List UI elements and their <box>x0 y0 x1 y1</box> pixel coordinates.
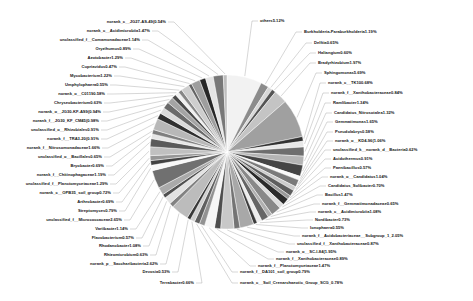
leader-line <box>209 228 256 266</box>
pie-slice-label: Variibacter1.14% <box>95 227 128 231</box>
pie-slice-label: norank_f__Acidobacteriaceae__Subgroup_1_… <box>302 234 403 238</box>
pie-slice-label: Azotobacter1.29% <box>87 56 123 60</box>
pie-slice-label: unclassified_f__Xanthobacteraceae0.87% <box>297 242 379 246</box>
pie-slice-label: norank_f__Xanthobacteraceae0.84% <box>331 91 403 95</box>
leader-line <box>104 96 173 104</box>
pie-slice-label: Candidatus_Nitrosotalea1.32% <box>334 111 394 115</box>
pie-slice-label: norank_o__SC-I-84(1.95% <box>286 250 337 254</box>
leader-line <box>300 132 333 179</box>
leader-line <box>247 227 300 236</box>
pie-slice-label: Nordibacter0.73% <box>315 218 350 222</box>
leader-line <box>260 220 313 223</box>
pie-slice-label: unclassified_f__Micrococcaceae2.65% <box>46 218 122 222</box>
pie-slice-label: others5.12% <box>260 19 284 23</box>
pie-slice-label: Burkholderia-Paraburkholderia1.19% <box>304 30 377 34</box>
pie-slice-label: norank_c__Soil_Crenarchaeotic_Group_SCG_… <box>240 281 343 285</box>
leader-line <box>237 229 295 244</box>
pie-slice-label: Cupriavidus0.47% <box>81 65 117 69</box>
leader-line <box>245 21 258 76</box>
pie-slice-label: Arthrobacter0.69% <box>77 200 114 204</box>
pie-slice-label: Candidatus_Solibacter0.70% <box>328 184 385 188</box>
pie-slice-label: norank_f__JG30_KF_CM45(0.98% <box>33 119 99 123</box>
leader-line <box>114 76 185 87</box>
leader-line <box>104 131 152 157</box>
leader-line <box>305 93 329 144</box>
pie-slice-label: unclassified_k__norank_d__Bacteria0.62% <box>333 148 417 152</box>
leader-line <box>274 53 316 90</box>
leader-line <box>150 206 171 255</box>
leader-line <box>110 151 149 184</box>
leader-line <box>202 226 238 272</box>
leader-line <box>113 158 149 193</box>
pie-chart-figure: others5.12%Burkholderia-Paraburkholderia… <box>0 0 473 301</box>
leader-line <box>107 93 176 94</box>
leader-line <box>227 230 284 252</box>
pie-slice-label: norank_f__Planctomycetaceae1.47% <box>258 264 330 268</box>
pie-slice-label: Acidothermus0.91% <box>333 157 372 161</box>
leader-line <box>133 49 202 78</box>
pie-slice-label: Terrabacter0.66% <box>160 281 194 285</box>
leader-line <box>160 214 179 265</box>
pie-slice-label: norank_c__OPB35_soil_group0.72% <box>39 191 111 195</box>
pie-slice-label: Bradyrhizobium1.97% <box>318 61 361 65</box>
pie-slice-label: norank_f__Xanthobacteraceae0.89% <box>276 257 348 261</box>
pie-slice-label: Rhodanobacter1.08% <box>99 244 141 248</box>
pie-slice-label: Ramlibacter1.34% <box>333 101 368 105</box>
pie-slice-label: Rhizomicrobium0.63% <box>104 253 148 257</box>
pie-slice-label: Flavobacterium0.57% <box>92 236 134 240</box>
pie-slice-label: norank_o__Candidatus1.04% <box>330 175 387 179</box>
pie-slice-label: Chryseobacterium0.63% <box>54 101 102 105</box>
pie-slice-label: Pseudolabrys0.58% <box>335 130 374 134</box>
pie-slice-label: norank_f__Chitinophagaceae1.19% <box>37 173 106 177</box>
leader-line <box>142 40 209 76</box>
leader-line <box>106 136 151 166</box>
pie-slice-label: Gemmatimonas1.65% <box>335 120 378 124</box>
pie-slice-label: Paenibacillus0.57% <box>333 166 371 170</box>
leader-line <box>256 225 308 229</box>
leader-line <box>271 43 312 88</box>
pie-slice-label: unclassified_o__Bacillales0.65% <box>38 155 102 159</box>
pie-slices-group <box>150 75 304 229</box>
leader-line <box>143 201 167 246</box>
pie-slice-label: norank_c__Acidimicrobiia1.47% <box>87 29 150 33</box>
leader-line <box>305 103 331 152</box>
leader-line <box>103 100 169 113</box>
leader-line <box>265 32 302 84</box>
leader-line <box>197 224 239 283</box>
pie-slice-label: Bacillus1.47% <box>325 193 353 197</box>
leader-line <box>217 229 274 259</box>
pie-slice-label: norank_c__Acidimicrobiia1.08% <box>318 210 381 214</box>
pie-slice-label: Streptomyces0.79% <box>78 209 117 213</box>
leader-line <box>108 143 150 176</box>
pie-slice-label: Ionophaera0.55% <box>310 226 344 230</box>
pie-slice-label: norank_f__TRA3-20(0.91% <box>47 137 99 141</box>
pie-slice-label: unclassified_o__Rhizobiales0.91% <box>31 128 99 132</box>
pie-slice-label: Haliangium0.60% <box>318 51 352 55</box>
pie-slice-label: Bryobacter0.69% <box>70 164 104 168</box>
leader-line <box>130 192 160 229</box>
pie-slice-label: norank_o__KD4-96(1.06% <box>335 139 386 143</box>
pie-slice-label: Umphylophaera0.55% <box>65 83 108 87</box>
leader-line <box>172 220 188 272</box>
pie-slice-label: norank_f__Nitrosomonadaceae1.66% <box>27 146 100 150</box>
pie-slice-label: Sphingomonas5.69% <box>324 71 366 75</box>
pie-slice-label: norank_o__C01190.58% <box>58 92 105 96</box>
pie-slice-label: unclassified_f__Comamonadaceae1.14% <box>60 38 140 42</box>
pie-slice-label: norank_c__JG27-AS-49(0.54% <box>107 20 166 24</box>
pie-slice-label: Delftia0.65% <box>314 41 338 45</box>
pie-slice-label: unclassified_f__Planctomycetaceae1.29% <box>26 182 108 186</box>
leader-line <box>101 116 158 139</box>
pie-slice-label: norank_c__TK100.68% <box>328 81 373 85</box>
leader-line <box>110 85 179 90</box>
pie-slice-label: norank_f__Gemmatimonadaceae0.65% <box>322 202 398 206</box>
pie-slice-label: norank_f__DA101_soil_group0.79% <box>240 270 310 274</box>
leader-line <box>116 163 150 202</box>
leader-line <box>297 73 322 118</box>
leader-line <box>152 31 218 75</box>
pie-slice-label: Oryzihumus0.89% <box>95 47 131 51</box>
leader-line <box>102 124 154 148</box>
pie-slice-label: norank_p__Saccharibacteria2.62% <box>90 262 158 266</box>
pie-slice-label: Mycobacterium1.22% <box>70 74 112 78</box>
leader-line <box>124 180 154 220</box>
leader-line <box>119 67 190 84</box>
